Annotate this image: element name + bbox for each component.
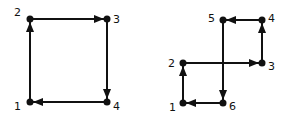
node-label: 5 [208,12,215,25]
node-label: 1 [169,101,176,114]
node-label: 2 [168,57,175,70]
node-label: 1 [14,100,21,113]
node-3 [104,16,111,23]
node-3 [259,60,266,67]
node-4 [259,17,266,24]
node-label: 4 [268,12,275,25]
node-label: 4 [113,100,120,113]
node-6 [220,100,227,107]
square-cycle-figure: 1234 [14,6,120,113]
node-1 [180,100,187,107]
graph-diagram: 1234123456 [0,0,291,116]
node-5 [220,17,227,24]
node-label: 3 [113,13,120,26]
node-label: 2 [14,6,21,19]
crossing-cycle-figure: 123456 [168,12,275,114]
node-label: 3 [268,60,275,73]
node-1 [27,99,34,106]
node-label: 6 [229,100,236,113]
node-2 [27,16,34,23]
node-4 [104,99,111,106]
node-2 [180,60,187,67]
